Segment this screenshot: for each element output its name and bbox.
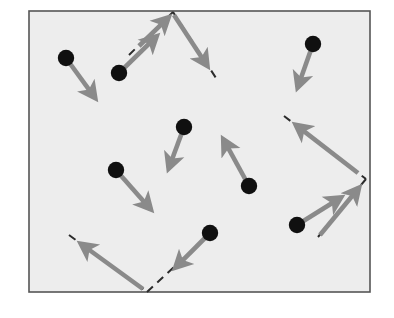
point-upper-left xyxy=(58,50,74,66)
point-lower-right xyxy=(289,217,305,233)
point-upper-mid xyxy=(111,65,127,81)
point-upper-right xyxy=(305,36,321,52)
point-center-right xyxy=(241,178,257,194)
figure-root xyxy=(0,0,394,318)
point-center-upper xyxy=(176,119,192,135)
vector-field-diagram xyxy=(0,0,394,318)
point-lower-mid xyxy=(202,225,218,241)
point-left-mid xyxy=(108,162,124,178)
